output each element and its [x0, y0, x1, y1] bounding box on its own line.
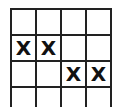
cell-r3-c2 — [62, 88, 87, 107]
cell-r2-c3: X — [87, 62, 112, 88]
cell-r1-c1: X — [37, 36, 62, 62]
cell-r3-c0 — [12, 88, 37, 107]
cell-r1-c0: X — [12, 36, 37, 62]
cell-r1-c3 — [87, 36, 112, 62]
cell-r0-c1 — [37, 10, 62, 36]
cell-r3-c3 — [87, 88, 112, 107]
cell-r3-c1 — [37, 88, 62, 107]
cell-r2-c2: X — [62, 62, 87, 88]
cell-r2-c0 — [12, 62, 37, 88]
cell-r1-c2 — [62, 36, 87, 62]
cell-r0-c0 — [12, 10, 37, 36]
cell-r2-c1 — [37, 62, 62, 88]
cell-r0-c2 — [62, 10, 87, 36]
grid-board: X X X X — [10, 8, 112, 107]
cell-r0-c3 — [87, 10, 112, 36]
